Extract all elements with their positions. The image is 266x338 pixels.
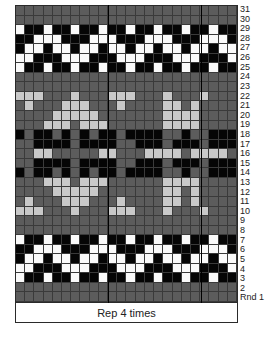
- chart-cell: [163, 63, 172, 73]
- chart-cell: [108, 226, 117, 236]
- chart-cell: [126, 73, 135, 83]
- chart-cell: [145, 54, 154, 64]
- chart-cell: [62, 63, 71, 73]
- chart-cell: [228, 245, 237, 255]
- chart-cell: [16, 264, 25, 274]
- chart-cell: [117, 121, 126, 131]
- chart-cell: [108, 63, 117, 73]
- chart-cell: [154, 187, 163, 197]
- chart-cell: [173, 159, 182, 169]
- chart-cell: [71, 178, 80, 188]
- chart-cell: [108, 254, 117, 264]
- chart-cell: [99, 16, 108, 26]
- chart-cell: [99, 187, 108, 197]
- chart-cell: [25, 216, 34, 226]
- chart-cell: [182, 149, 191, 159]
- chart-cell: [219, 273, 228, 283]
- chart-cell: [228, 207, 237, 217]
- chart-cell: [228, 63, 237, 73]
- chart-cell: [80, 54, 89, 64]
- chart-cell: [228, 92, 237, 102]
- chart-cell: [126, 54, 135, 64]
- chart-cell: [191, 254, 200, 264]
- chart-cell: [136, 178, 145, 188]
- chart-cell: [90, 216, 99, 226]
- chart-cell: [108, 149, 117, 159]
- chart-cell: [62, 273, 71, 283]
- chart-cell: [71, 149, 80, 159]
- chart-cell: [108, 44, 117, 54]
- chart-cell: [53, 35, 62, 45]
- chart-cell: [34, 235, 43, 245]
- chart-cell: [209, 92, 218, 102]
- chart-cell: [117, 111, 126, 121]
- chart-cell: [16, 121, 25, 131]
- chart-cell: [44, 197, 53, 207]
- chart-cell: [219, 92, 228, 102]
- chart-cell: [145, 121, 154, 131]
- chart-cell: [117, 273, 126, 283]
- chart-cell: [99, 111, 108, 121]
- chart-cell: [108, 121, 117, 131]
- chart-cell: [108, 168, 117, 178]
- chart-cell: [191, 73, 200, 83]
- chart-cell: [44, 254, 53, 264]
- chart-cell: [209, 35, 218, 45]
- chart-cell: [90, 283, 99, 293]
- chart-cell: [25, 235, 34, 245]
- chart-cell: [44, 178, 53, 188]
- chart-cell: [219, 168, 228, 178]
- chart-cell: [219, 54, 228, 64]
- chart-cell: [34, 226, 43, 236]
- chart-cell: [71, 254, 80, 264]
- chart-cell: [173, 149, 182, 159]
- chart-cell: [182, 283, 191, 293]
- chart-cell: [71, 245, 80, 255]
- chart-cell: [136, 226, 145, 236]
- chart-cell: [80, 187, 89, 197]
- chart-cell: [117, 54, 126, 64]
- chart-cell: [108, 292, 117, 302]
- chart-cell: [34, 292, 43, 302]
- chart-cell: [228, 187, 237, 197]
- chart-cell: [71, 101, 80, 111]
- chart-cell: [145, 6, 154, 16]
- chart-cell: [80, 226, 89, 236]
- chart-cell: [154, 111, 163, 121]
- chart-cell: [117, 101, 126, 111]
- chart-cell: [53, 92, 62, 102]
- chart-cell: [163, 25, 172, 35]
- chart-cell: [34, 82, 43, 92]
- chart-cell: [219, 264, 228, 274]
- chart-cell: [182, 73, 191, 83]
- chart-cell: [228, 121, 237, 131]
- chart-cell: [145, 92, 154, 102]
- chart-cell: [99, 226, 108, 236]
- chart-cell: [173, 73, 182, 83]
- chart-cell: [136, 73, 145, 83]
- chart-cell: [44, 207, 53, 217]
- chart-cell: [53, 149, 62, 159]
- chart-cell: [145, 140, 154, 150]
- chart-cell: [62, 226, 71, 236]
- chart-cell: [154, 82, 163, 92]
- chart-cell: [25, 101, 34, 111]
- chart-cell: [80, 63, 89, 73]
- chart-cell: [71, 187, 80, 197]
- chart-cell: [136, 187, 145, 197]
- chart-cell: [71, 273, 80, 283]
- chart-cell: [136, 149, 145, 159]
- chart-cell: [191, 16, 200, 26]
- chart-cell: [173, 187, 182, 197]
- chart-cell: [191, 197, 200, 207]
- chart-cell: [219, 226, 228, 236]
- chart-cell: [44, 82, 53, 92]
- chart-cell: [108, 54, 117, 64]
- chart-cell: [62, 207, 71, 217]
- chart-cell: [80, 35, 89, 45]
- chart-cell: [71, 54, 80, 64]
- chart-cell: [145, 159, 154, 169]
- chart-cell: [117, 187, 126, 197]
- chart-cell: [154, 216, 163, 226]
- chart-cell: [209, 130, 218, 140]
